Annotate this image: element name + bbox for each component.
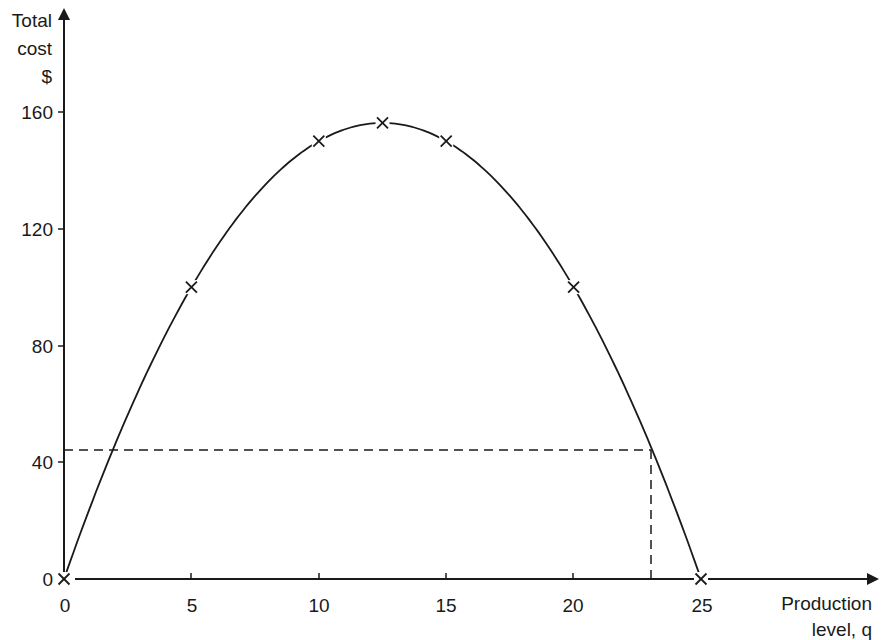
x-tick-label: 5 — [187, 595, 198, 616]
y-tick-label: 120 — [21, 219, 53, 240]
y-axis-label: Total — [12, 10, 52, 31]
x-tick-label: 15 — [435, 595, 456, 616]
x-axis-label: level, q — [812, 619, 872, 640]
x-tick-label: 0 — [60, 595, 71, 616]
y-tick-label: 160 — [21, 102, 53, 123]
y-axis-label: $ — [41, 66, 52, 87]
y-tick-label: 40 — [32, 452, 53, 473]
x-tick-label: 20 — [562, 595, 583, 616]
y-axis-label: cost — [17, 38, 53, 59]
x-tick-label: 10 — [308, 595, 329, 616]
y-tick-label: 0 — [42, 569, 53, 590]
x-axis-label: Production — [781, 593, 872, 614]
y-tick-label: 80 — [32, 336, 53, 357]
x-tick-label: 25 — [691, 595, 712, 616]
chart: 160 120 80 40 0 0 5 10 15 20 25 Total co… — [0, 0, 881, 640]
total-cost-curve — [64, 123, 701, 579]
data-point-markers — [57, 116, 708, 586]
